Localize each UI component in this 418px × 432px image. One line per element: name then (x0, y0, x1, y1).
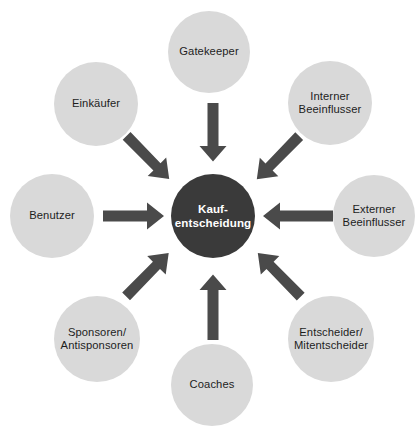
diagram-graphics-layer (0, 0, 418, 432)
arrow-coaches (200, 275, 227, 341)
node-circle-einkaeufer (54, 62, 138, 146)
node-circle-entscheider-mitentscheider (288, 296, 374, 382)
arrow-benutzer (103, 203, 164, 230)
arrow-einkaeufer (123, 132, 170, 179)
arrow-entscheider (258, 253, 305, 301)
node-circle-interner-beeinflusser (288, 61, 372, 145)
arrow-externer-beeinflusser (263, 203, 333, 230)
node-circle-gatekeeper (168, 11, 250, 93)
buying-center-diagram: Gatekeeper Interner Beeinflusser Externe… (0, 0, 418, 432)
arrow-sponsoren (122, 253, 169, 300)
node-circle-coaches (171, 344, 253, 426)
node-circle-sponsoren-antisponsoren (54, 296, 140, 382)
center-node-circle (171, 174, 255, 258)
arrow-interner-beeinflusser (257, 132, 303, 179)
center-node-group (171, 174, 255, 258)
arrow-gatekeeper (200, 103, 227, 162)
node-circle-externer-beeinflusser (333, 175, 415, 257)
node-circle-benutzer (10, 174, 94, 258)
